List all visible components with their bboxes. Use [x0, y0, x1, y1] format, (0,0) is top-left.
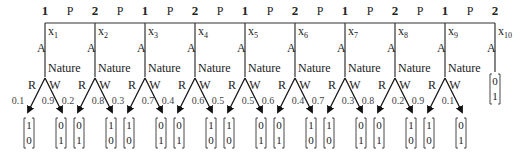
payoff-left-bracket-right	[432, 118, 434, 148]
nature-label: Nature	[348, 61, 381, 75]
player-label: 2	[392, 3, 399, 18]
payoff-right-player2: 1	[58, 134, 64, 146]
player-label: 1	[42, 3, 49, 18]
pass-label: P	[267, 4, 274, 18]
branch-left-label: R	[278, 78, 286, 92]
payoff-left-bracket-right	[132, 118, 134, 148]
payoff-left-player1: 0	[76, 119, 82, 131]
prob-left: 0.6	[262, 95, 275, 106]
prob-right: 0.2	[392, 95, 405, 106]
terminal-payoff-player1: 0	[492, 75, 498, 87]
payoff-right-player1: 0	[458, 119, 464, 131]
payoff-left-player2: 0	[126, 134, 132, 146]
payoff-left-player1: 1	[226, 119, 232, 131]
branch-right-label: W	[249, 78, 261, 92]
node-label: x7	[348, 24, 358, 40]
node-label: x4	[198, 24, 208, 40]
payoff-right-player1: 1	[108, 119, 114, 131]
payoff-right-player1: 0	[158, 119, 164, 131]
payoff-left-player1: 1	[426, 119, 432, 131]
payoff-right-bracket-right	[464, 118, 466, 148]
branch-right-label: W	[349, 78, 361, 92]
pass-label: P	[467, 4, 474, 18]
branch-right-label: W	[299, 78, 311, 92]
payoff-right-player2: 1	[158, 134, 164, 146]
nature-label: Nature	[448, 61, 481, 75]
payoff-right-player1: 1	[208, 119, 214, 131]
pass-label: P	[367, 4, 374, 18]
prob-right: 0.3	[342, 95, 355, 106]
payoff-right-bracket-right	[214, 118, 216, 148]
pass-label: P	[217, 4, 224, 18]
payoff-right-bracket-right	[264, 118, 266, 148]
branch-right-label: W	[399, 78, 411, 92]
payoff-left-player2: 1	[76, 134, 82, 146]
branch-right-label: W	[49, 78, 61, 92]
payoff-right-player2: 0	[408, 134, 414, 146]
prob-right: 0.4	[292, 95, 305, 106]
payoff-left-bracket-right	[382, 118, 384, 148]
player-label: 2	[192, 3, 199, 18]
node-label: x8	[398, 24, 408, 40]
pass-label: P	[417, 4, 424, 18]
payoff-left-player2: 0	[226, 134, 232, 146]
prob-left: 0.1	[12, 95, 25, 106]
pass-label: P	[67, 4, 74, 18]
payoff-left-bracket-right	[232, 118, 234, 148]
branch-left-label: R	[178, 78, 186, 92]
branch-right-label: W	[149, 78, 161, 92]
pass-label: P	[167, 4, 174, 18]
payoff-right-player1: 0	[258, 119, 264, 131]
prob-left: 0.4	[162, 95, 175, 106]
node-label: x9	[448, 24, 458, 40]
node-label: x10	[498, 24, 512, 40]
prob-right: 0.1	[442, 95, 455, 106]
nature-label: Nature	[148, 61, 181, 75]
prob-left: 0.2	[62, 95, 75, 106]
payoff-left-bracket-right	[32, 118, 34, 148]
node-label: x6	[298, 24, 308, 40]
payoff-left-player1: 1	[26, 119, 32, 131]
payoff-left-player2: 1	[376, 134, 382, 146]
payoff-right-player1: 0	[358, 119, 364, 131]
payoff-right-player2: 0	[308, 134, 314, 146]
payoff-left-player2: 0	[426, 134, 432, 146]
payoff-left-bracket-right	[82, 118, 84, 148]
payoff-left-player1: 0	[176, 119, 182, 131]
branch-left-label: R	[328, 78, 336, 92]
payoff-left-player1: 0	[276, 119, 282, 131]
pass-label: P	[117, 4, 124, 18]
prob-right: 0.6	[192, 95, 205, 106]
prob-left: 0.3	[112, 95, 125, 106]
payoff-right-player2: 1	[258, 134, 264, 146]
player-label: 2	[492, 3, 499, 18]
pass-label: P	[317, 4, 324, 18]
player-label: 1	[342, 3, 349, 18]
payoff-right-bracket-right	[364, 118, 366, 148]
branch-left-label: R	[128, 78, 136, 92]
terminal-payoff-bracket-right	[498, 74, 500, 104]
nature-label: Nature	[298, 61, 331, 75]
node-label: x5	[248, 24, 258, 40]
payoff-left-player2: 0	[326, 134, 332, 146]
game-tree-diagram: 1Px1ANatureRW0.10.910012Px2ANatureRW0.20…	[0, 0, 524, 154]
branch-right-label: W	[449, 78, 461, 92]
payoff-right-bracket-right	[114, 118, 116, 148]
branch-left-label: R	[378, 78, 386, 92]
payoff-right-player1: 1	[308, 119, 314, 131]
payoff-left-bracket-right	[182, 118, 184, 148]
nature-label: Nature	[48, 61, 81, 75]
prob-right: 0.9	[42, 95, 55, 106]
node-label: x2	[98, 24, 108, 40]
player-label: 1	[442, 3, 449, 18]
payoff-right-bracket-right	[314, 118, 316, 148]
payoff-right-player1: 1	[408, 119, 414, 131]
branch-left-label: R	[428, 78, 436, 92]
payoff-right-player2: 0	[208, 134, 214, 146]
prob-right: 0.7	[142, 95, 155, 106]
node-label: x3	[148, 24, 158, 40]
payoff-left-player1: 0	[376, 119, 382, 131]
prob-right: 0.8	[92, 95, 105, 106]
payoff-right-bracket-right	[64, 118, 66, 148]
payoff-right-player2: 1	[358, 134, 364, 146]
